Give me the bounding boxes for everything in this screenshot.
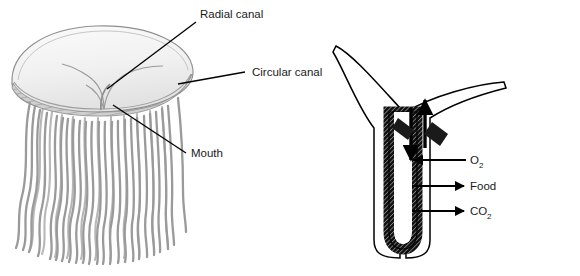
- label-circular-canal: Circular canal: [252, 66, 322, 78]
- label-oxygen-text: O: [470, 154, 479, 166]
- label-radial-canal: Radial canal: [200, 8, 263, 20]
- label-carbon-dioxide-text: CO: [470, 205, 487, 217]
- anatomy-figure: Radial canal Circular canal Mouth O 2: [0, 0, 580, 276]
- label-mouth: Mouth: [191, 147, 223, 159]
- label-oxygen-subscript: 2: [479, 161, 484, 170]
- label-carbon-dioxide-subscript: 2: [487, 212, 492, 221]
- label-food: Food: [470, 180, 496, 192]
